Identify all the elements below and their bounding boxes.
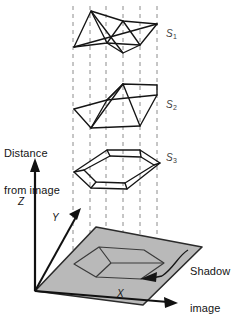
slice-2-wireframe: [74, 84, 157, 128]
slice-1-wireframe: [74, 11, 157, 53]
distance-from-image-label: Distance from image: [4, 122, 60, 221]
slice-1-label-subscript: 1: [173, 33, 177, 40]
slice-2-label-text: S: [166, 99, 173, 110]
slice-3-label-text: S: [166, 152, 173, 163]
distance-label-line-1: Distance: [4, 147, 60, 159]
slice-3-label: S3: [166, 152, 177, 163]
distance-label-line-2: from image: [4, 184, 60, 196]
slice-3-connector-4: [91, 182, 96, 188]
shadow-image-diagram: Distance from image Shadow image Z Y X S…: [0, 0, 239, 314]
slice-2-edge-f: [91, 126, 140, 128]
slice-3-connector-5: [125, 183, 127, 189]
slice-1-edge-a: [74, 11, 157, 47]
slice-3-connector-6: [107, 150, 110, 156]
slice-2-edge-g: [107, 84, 123, 100]
slice-2-edge-c: [91, 84, 123, 128]
y-axis-arrowhead: [69, 208, 81, 220]
slice-3-inner-ring: [84, 156, 154, 183]
x-axis-label: X: [117, 288, 124, 299]
shadow-label-line-1: Shadow: [190, 265, 230, 277]
y-axis-label: Y: [52, 212, 59, 223]
shadow-label-line-2: image: [190, 302, 230, 314]
x-axis-arrowhead: [164, 297, 178, 308]
z-axis-label: Z: [18, 196, 24, 207]
slice-1-label-text: S: [166, 28, 173, 39]
shadow-image-label: Shadow image: [190, 240, 230, 314]
slice-3-wireframe: [74, 150, 160, 189]
slice-2-label: S2: [166, 99, 177, 110]
slice-3-label-subscript: 3: [173, 157, 177, 164]
slice-2-label-subscript: 2: [173, 104, 177, 111]
slice-1-label: S1: [166, 28, 177, 39]
slice-3-connector-3: [154, 163, 160, 165]
